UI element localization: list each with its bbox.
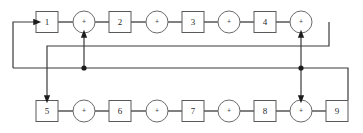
summing-junction-b-label: + — [155, 18, 159, 25]
block-diagram-canvas: 1+2+3+4+5+6+7+8+9 — [0, 0, 363, 133]
summing-junction-c[interactable]: + — [218, 11, 240, 33]
block-9[interactable]: 9 — [326, 101, 348, 122]
summing-junction-g-label: + — [227, 107, 231, 114]
summing-junction-a-label: + — [82, 18, 86, 25]
summing-junction-a[interactable]: + — [73, 11, 95, 33]
feedback-path-outer-left — [13, 22, 36, 68]
block-3-label: 3 — [191, 17, 196, 27]
block-8-label: 8 — [263, 106, 268, 116]
summing-junction-c-label: + — [227, 18, 231, 25]
summing-junction-d[interactable]: + — [290, 11, 312, 33]
summing-junction-b[interactable]: + — [146, 11, 168, 33]
summing-junction-h[interactable]: + — [290, 100, 312, 122]
summing-junction-h-label: + — [299, 107, 303, 114]
block-7[interactable]: 7 — [182, 101, 204, 122]
block-diagram-svg: 1+2+3+4+5+6+7+8+9 — [0, 0, 363, 133]
block-1-label: 1 — [45, 17, 50, 27]
block-4-label: 4 — [263, 17, 268, 27]
summing-junction-f[interactable]: + — [146, 100, 168, 122]
summing-junction-f-label: + — [155, 107, 159, 114]
feedback-path-upper-bus — [47, 22, 329, 111]
block-7-label: 7 — [191, 106, 196, 116]
block-2[interactable]: 2 — [109, 12, 131, 33]
block-4[interactable]: 4 — [254, 12, 276, 33]
block-8[interactable]: 8 — [254, 101, 276, 122]
block-9-label: 9 — [335, 106, 340, 116]
block-5-label: 5 — [45, 106, 50, 116]
feedback-path-lower-bus — [13, 68, 348, 100]
summing-junction-g[interactable]: + — [218, 100, 240, 122]
block-6-label: 6 — [118, 106, 123, 116]
junction-dot-left — [81, 65, 86, 70]
chain-link-layer — [58, 22, 326, 111]
junction-dot-right — [298, 65, 303, 70]
summing-junction-e[interactable]: + — [73, 100, 95, 122]
summing-junction-d-label: + — [299, 18, 303, 25]
block-3[interactable]: 3 — [182, 12, 204, 33]
block-5[interactable]: 5 — [36, 101, 58, 122]
routing-layer — [13, 22, 348, 111]
block-2-label: 2 — [118, 17, 123, 27]
block-6[interactable]: 6 — [109, 101, 131, 122]
summing-junction-e-label: + — [82, 107, 86, 114]
